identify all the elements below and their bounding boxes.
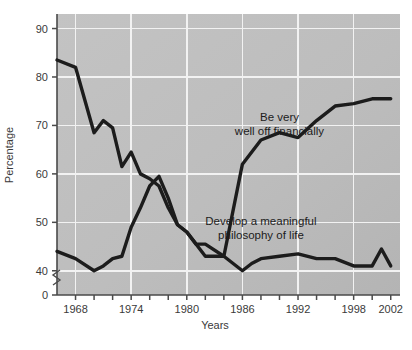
- x-tick-label: 1968: [63, 303, 87, 315]
- y-tick-label: 80: [36, 71, 48, 83]
- series-annotation: philosophy of life: [218, 229, 304, 241]
- series-annotation: well off financially: [234, 125, 325, 137]
- y-tick-label: 40: [36, 265, 48, 277]
- x-axis-title: Years: [201, 319, 229, 331]
- y-axis-title: Percentage: [3, 127, 15, 183]
- x-tick-label: 1974: [119, 303, 143, 315]
- x-tick-label: 1998: [341, 303, 365, 315]
- x-tick-label: 1986: [230, 303, 254, 315]
- x-tick-label: 1980: [175, 303, 199, 315]
- y-tick-label: 90: [36, 23, 48, 35]
- series-annotation: Develop a meaningful: [205, 215, 316, 227]
- y-tick-label: 60: [36, 168, 48, 180]
- x-tick-label: 2002: [378, 303, 402, 315]
- y-tick-label-zero: 0: [42, 289, 48, 301]
- line-chart: 4050607080900 19681974198019861992199820…: [0, 0, 412, 350]
- plot-background: [57, 14, 400, 295]
- chart-container: 4050607080900 19681974198019861992199820…: [0, 0, 412, 350]
- x-tick-label: 1992: [286, 303, 310, 315]
- y-axis-ticks: 4050607080900: [36, 23, 57, 301]
- x-axis-ticks: 1968197419801986199219982002: [63, 295, 403, 315]
- series-annotation: Be very: [260, 111, 299, 123]
- y-tick-label: 50: [36, 216, 48, 228]
- y-tick-label: 70: [36, 119, 48, 131]
